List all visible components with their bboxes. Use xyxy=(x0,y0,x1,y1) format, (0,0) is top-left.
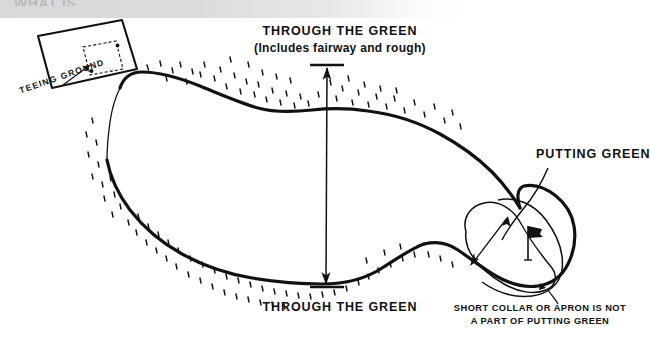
green-width-arrow xyxy=(470,216,511,266)
fairway-lower-boundary xyxy=(107,160,424,284)
apron-note-line-2: A PART OF PUTTING GREEN xyxy=(440,316,640,326)
green-surround-boundary xyxy=(424,185,575,286)
apron-note-line-1: SHORT COLLAR OR APRON IS NOT xyxy=(440,303,640,313)
apron-note-leader xyxy=(548,290,558,304)
tee-marker-right xyxy=(116,44,120,48)
green-width-arrow-shaft xyxy=(472,218,507,264)
rough-stipple-lower xyxy=(128,214,453,309)
green-width-arrowhead-upper xyxy=(502,216,511,227)
rough-stipple-left xyxy=(86,118,121,217)
flag xyxy=(528,226,543,238)
fairway-upper-boundary xyxy=(120,72,520,208)
through-the-green-extent-arrow xyxy=(310,65,344,287)
through-the-green-top-sublabel: (Includes fairway and rough) xyxy=(238,41,442,55)
through-the-green-group xyxy=(107,72,575,287)
diagram-page: WHAT IS xyxy=(0,0,650,346)
fairway-left-shoulder xyxy=(107,88,120,160)
extent-arrow-shaft xyxy=(326,68,327,284)
putting-green-label: PUTTING GREEN xyxy=(536,147,650,161)
rough-stipple-upper xyxy=(147,57,461,129)
through-the-green-top-label: THROUGH THE GREEN xyxy=(240,24,440,38)
through-the-green-bottom-label: THROUGH THE GREEN xyxy=(250,300,430,314)
